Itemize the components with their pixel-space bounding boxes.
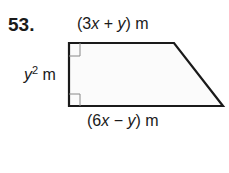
label-text: − — [109, 112, 127, 129]
trapezoid-shape — [69, 43, 223, 106]
height-label: y2 m — [24, 64, 56, 84]
label-text: (3 — [77, 15, 91, 32]
bottom-base-label: (6x − y) m — [87, 112, 159, 130]
variable-y: y — [24, 66, 32, 83]
label-text: ) m — [125, 15, 148, 32]
top-base-label: (3x + y) m — [77, 15, 149, 33]
label-text: ) m — [135, 112, 158, 129]
label-text: (6 — [87, 112, 101, 129]
label-text: m — [38, 66, 56, 83]
label-text: + — [99, 15, 117, 32]
